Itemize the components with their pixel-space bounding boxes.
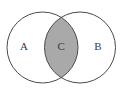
venn-diagram-figure: A C B xyxy=(0,0,123,94)
venn-diagram-canvas: A C B xyxy=(0,0,123,94)
set-a-label: A xyxy=(20,40,28,52)
set-b-label: B xyxy=(94,40,101,52)
set-c-label: C xyxy=(58,40,65,52)
